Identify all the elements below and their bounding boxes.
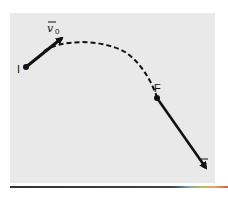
bottom-rule: [10, 186, 228, 188]
final-point-label: F: [154, 82, 161, 94]
svg-text:v: v: [47, 22, 54, 35]
initial-point-dot: [23, 64, 29, 70]
svg-text:v: v: [201, 159, 207, 170]
trajectory-diagram: I F v 0 v: [0, 0, 228, 200]
final-point-dot: [154, 95, 160, 101]
svg-text:0: 0: [55, 27, 60, 36]
figure-panel: [10, 13, 215, 183]
initial-point-label: I: [17, 63, 20, 75]
